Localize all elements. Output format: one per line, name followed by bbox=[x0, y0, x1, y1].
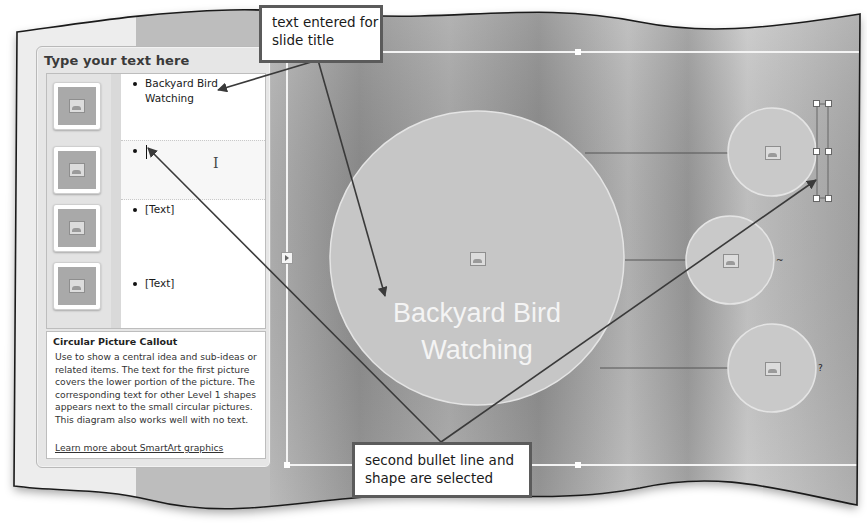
selection-handle[interactable] bbox=[825, 148, 832, 155]
callout-text: text entered for slide title bbox=[262, 8, 380, 49]
callout-selection: second bullet line and shape are selecte… bbox=[352, 442, 532, 498]
picture-placeholder-icon bbox=[69, 163, 85, 177]
bullet-icon bbox=[133, 149, 137, 153]
smartart-text-pane: Type your text here Backyard Bird Watchi… bbox=[36, 46, 271, 468]
callout-title: text entered for slide title bbox=[259, 5, 383, 63]
picture-placeholder-icon[interactable] bbox=[765, 362, 781, 376]
selection-handle[interactable] bbox=[825, 100, 832, 107]
entry-text[interactable]: Backyard Bird Watching bbox=[145, 76, 263, 106]
picture-placeholder-icon[interactable] bbox=[765, 146, 781, 160]
picture-placeholder-icon[interactable] bbox=[723, 254, 739, 268]
list-item[interactable]: Backyard Bird Watching bbox=[47, 74, 265, 140]
bullet-icon bbox=[133, 282, 137, 286]
slide-title-text[interactable]: Backyard Bird Watching bbox=[372, 295, 582, 369]
list-item[interactable]: [Text] bbox=[47, 200, 265, 260]
picture-placeholder-icon bbox=[69, 221, 85, 235]
bullet-icon bbox=[133, 82, 137, 86]
svg-text:~: ~ bbox=[776, 255, 784, 265]
list-item-selected[interactable]: I bbox=[47, 140, 265, 200]
text-pane-entries: Backyard Bird Watching I [Text] [Te bbox=[46, 73, 266, 329]
ibeam-cursor-icon: I bbox=[213, 155, 219, 171]
picture-placeholder-icon bbox=[69, 99, 85, 113]
thumbnail[interactable] bbox=[53, 146, 101, 194]
selection-handle[interactable] bbox=[825, 195, 832, 202]
selection-handle[interactable] bbox=[813, 195, 820, 202]
list-item[interactable]: [Text] bbox=[47, 260, 265, 326]
entry-text[interactable]: [Text] bbox=[145, 276, 263, 291]
selection-handle[interactable] bbox=[813, 148, 820, 155]
text-pane-title: Type your text here bbox=[44, 53, 189, 68]
picture-placeholder-icon bbox=[69, 279, 85, 293]
thumbnail[interactable] bbox=[53, 262, 101, 310]
callout-text: second bullet line and shape are selecte… bbox=[355, 445, 529, 487]
layout-description-text: Use to show a central idea and sub-ideas… bbox=[55, 351, 261, 426]
text-caret bbox=[146, 145, 147, 159]
entry-text[interactable]: [Text] bbox=[145, 202, 263, 217]
learn-more-link[interactable]: Learn more about SmartArt graphics bbox=[55, 442, 223, 453]
picture-placeholder-icon[interactable] bbox=[470, 252, 486, 266]
bullet-icon bbox=[133, 208, 137, 212]
chevron-right-icon[interactable] bbox=[281, 252, 293, 264]
layout-name: Circular Picture Callout bbox=[53, 336, 177, 347]
thumbnail[interactable] bbox=[53, 82, 101, 130]
selection-handle[interactable] bbox=[813, 100, 820, 107]
thumbnail[interactable] bbox=[53, 204, 101, 252]
svg-text:?: ? bbox=[818, 363, 823, 373]
layout-description: Circular Picture Callout Use to show a c… bbox=[46, 331, 266, 459]
